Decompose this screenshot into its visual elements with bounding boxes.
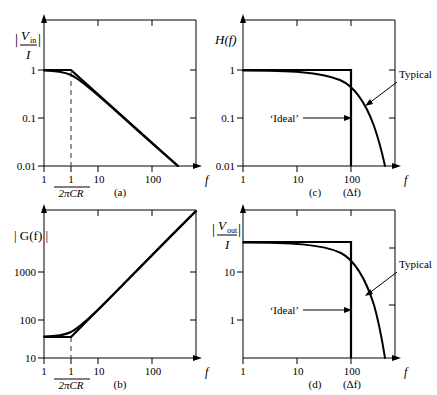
panel-b-y-ticks (38, 272, 196, 358)
ideal-label: ‘Ideal’ (270, 112, 299, 124)
panel-b-y-tick-labels: 1000 100 10 (14, 266, 37, 364)
svg-text:|: | (38, 31, 41, 47)
corner-fraction-denominator: 2πCR (58, 379, 83, 391)
panel-a-actual-curve (44, 71, 178, 166)
svg-text:|: | (212, 221, 215, 237)
y-tick-label: 0.1 (22, 112, 36, 124)
y-tick-label: 1000 (14, 266, 37, 278)
panel-d-x-axis-label: f (404, 365, 409, 379)
panel-b-actual-curve (44, 211, 196, 337)
x-tick-label: 10 (293, 173, 305, 185)
y-tick-label: 1 (230, 314, 236, 326)
panel-d-x-ticks (243, 210, 351, 364)
panel-a: | V in I | 1 0.1 0.01 1 1 10 100 2πCR f … (15, 14, 210, 199)
x-tick-label: 1 (240, 365, 246, 377)
svg-text:out: out (227, 226, 238, 235)
panel-a-y-tick-labels: 1 0.1 0.01 (17, 64, 36, 172)
panel-a-y-ticks (38, 70, 196, 166)
panel-b-x-tick-labels: 1 1 10 100 (41, 365, 162, 377)
panel-c-delta-f-label: (Δf) (343, 186, 361, 199)
panel-d-frame (243, 210, 395, 358)
y-tick-label: 0.1 (221, 112, 235, 124)
panel-b-asymptote-curve (44, 211, 196, 337)
y-tick-label: 1 (230, 64, 236, 76)
panel-d-y-axis-label: | V out I | (212, 218, 241, 252)
panel-d-typical-annotation: Typical (365, 258, 432, 296)
x-tick-label: 100 (344, 173, 361, 185)
panel-a-x-axis-label: f (205, 173, 210, 187)
x-tick-label: 100 (344, 365, 361, 377)
x-tick-label: 10 (293, 365, 305, 377)
typical-label: Typical (399, 258, 432, 270)
panel-c-ideal-annotation: ‘Ideal’ (270, 112, 352, 124)
x-tick-label: 1 (68, 365, 74, 377)
panel-a-x-tick-labels: 1 1 10 100 (41, 173, 162, 185)
panel-a-asymptote-curve (44, 70, 178, 166)
panel-b-y-axis-label: | G(f) | (14, 228, 48, 243)
panel-d-typical-curve (243, 243, 385, 359)
panel-d: ‘Ideal’ Typical | V out I | 10 1 1 10 10… (212, 204, 432, 391)
panel-d-y-tick-labels: 10 1 (224, 266, 236, 326)
panel-d-x-tick-labels: 1 10 100 (240, 365, 361, 377)
x-tick-label: 1 (41, 173, 47, 185)
panel-d-y-ticks (237, 248, 395, 320)
svg-text:I: I (25, 47, 31, 62)
panel-b-x-axis-label: f (205, 365, 210, 379)
panel-b-x-ticks (44, 210, 152, 364)
panel-c-x-ticks (243, 20, 351, 172)
panel-d-ideal-annotation: ‘Ideal’ (270, 304, 352, 316)
y-tick-label: 10 (224, 266, 236, 278)
panel-d-delta-f-label: (Δf) (343, 378, 361, 391)
svg-text:|: | (238, 221, 241, 237)
panel-c-x-axis-label: f (404, 173, 409, 187)
figure-svg: | V in I | 1 0.1 0.01 1 1 10 100 2πCR f … (0, 0, 437, 395)
x-tick-label: 1 (41, 365, 47, 377)
panel-d-ideal-curve (243, 242, 351, 358)
panel-d-axis-arrows (240, 204, 401, 361)
y-tick-label: 0.01 (17, 160, 36, 172)
x-tick-label: 10 (94, 173, 106, 185)
y-tick-label: 100 (20, 314, 37, 326)
svg-text:in: in (30, 36, 36, 45)
panel-d-caption: (d) (309, 378, 322, 391)
panel-c-axis-arrows (240, 14, 401, 169)
panel-b-corner-fraction-label: 2πCR (54, 379, 90, 391)
panel-c-caption: (c) (309, 186, 322, 199)
x-tick-label: 1 (68, 173, 74, 185)
typical-arrowhead (365, 99, 373, 106)
corner-fraction-denominator: 2πCR (58, 187, 83, 199)
x-tick-label: 100 (145, 173, 162, 185)
panel-a-y-axis-label: | V in I | (15, 28, 41, 62)
panel-c-frame (243, 20, 395, 166)
x-tick-label: 10 (94, 365, 106, 377)
panel-b: | G(f) | 1000 100 10 1 1 10 100 2πCR f (… (14, 204, 210, 391)
x-tick-label: 1 (240, 173, 246, 185)
ideal-label: ‘Ideal’ (270, 304, 299, 316)
panel-a-caption: (a) (114, 186, 127, 199)
panel-b-caption: (b) (114, 378, 127, 391)
typical-label: Typical (399, 68, 432, 80)
panel-c-y-tick-labels: 1 0.1 0.01 (216, 64, 235, 172)
panel-a-corner-fraction-label: 2πCR (54, 187, 90, 199)
panel-c-y-axis-label: H(f) (214, 32, 237, 47)
x-tick-label: 100 (145, 365, 162, 377)
svg-text:|: | (15, 31, 18, 47)
panel-c-x-tick-labels: 1 10 100 (240, 173, 361, 185)
y-tick-label: 1 (31, 64, 37, 76)
panel-c-typical-annotation: Typical (365, 68, 432, 106)
panel-a-frame (44, 20, 196, 166)
y-tick-label: 0.01 (216, 160, 235, 172)
svg-text:I: I (224, 237, 230, 252)
panel-c: ‘Ideal’ Typical H(f) 1 0.1 0.01 1 10 100… (214, 14, 432, 199)
y-tick-label: 10 (25, 352, 37, 364)
figure-canvas: | V in I | 1 0.1 0.01 1 1 10 100 2πCR f … (0, 0, 437, 395)
panel-a-axis-arrows (41, 14, 202, 169)
